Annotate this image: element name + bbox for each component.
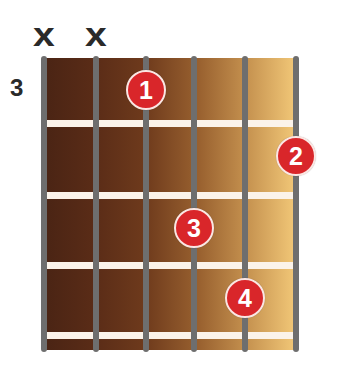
string-3 [191,56,197,352]
finger-dot-1: 1 [126,70,166,110]
fret-line [44,262,296,269]
string-5 [93,56,99,352]
fret-line [44,192,296,199]
finger-dot-2: 2 [276,136,316,176]
mute-marker-string-6: x [33,14,55,54]
mute-marker-string-5: x [85,14,107,54]
fret-line [44,120,296,127]
finger-dot-4: 4 [225,278,265,318]
finger-dot-3: 3 [174,208,214,248]
string-1 [293,56,299,352]
fret-line [44,332,296,339]
string-6 [41,56,47,352]
start-fret-label: 3 [10,74,23,102]
